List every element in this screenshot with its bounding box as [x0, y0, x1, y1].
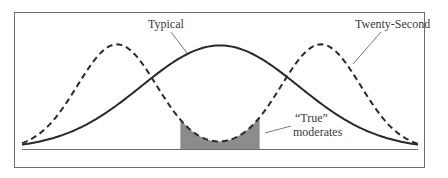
distribution-diagram: Typical Twenty-Second “True” moderates: [0, 0, 448, 178]
twenty-second-label: Twenty-Second: [355, 17, 430, 31]
typical-label: Typical: [148, 17, 184, 31]
true-moderates-label-line1: “True”: [295, 111, 328, 125]
true-moderates-label-line2: moderates: [293, 125, 343, 139]
